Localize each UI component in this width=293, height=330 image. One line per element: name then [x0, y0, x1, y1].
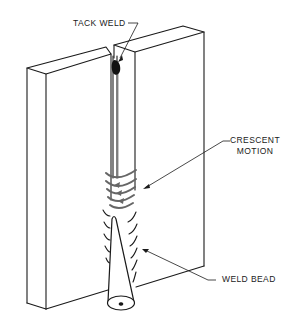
crescent-motion-label: CRESCENT MOTION [230, 135, 280, 157]
weld-bead-label: WELD BEAD [222, 274, 276, 285]
electrode [108, 217, 135, 311]
leader-lines [120, 23, 230, 280]
tack-weld-label: TACK WELD [73, 18, 126, 29]
right-plate [114, 26, 204, 287]
crescent-motion-label-line2: MOTION [230, 146, 280, 157]
weld-diagram: TACK WELD CRESCENT MOTION WELD BEAD [0, 0, 293, 330]
tack-weld-blob [112, 60, 121, 75]
left-plate [27, 47, 111, 309]
leader-arrowheads [118, 55, 150, 253]
crescent-motion-label-line1: CRESCENT [230, 135, 280, 146]
